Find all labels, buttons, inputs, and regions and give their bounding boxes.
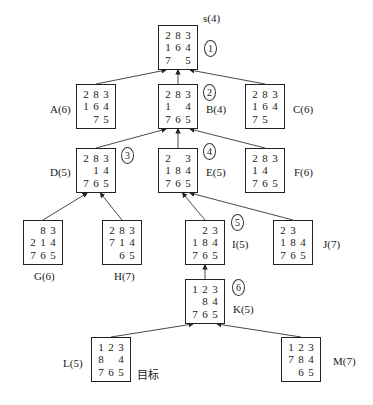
tile: 7 — [190, 249, 200, 261]
tile — [270, 113, 280, 125]
tile: 8 — [91, 152, 101, 164]
tile: 1 — [278, 236, 288, 248]
tile: 5 — [298, 249, 308, 261]
tile — [286, 366, 296, 378]
tile: 7 — [250, 113, 260, 125]
tile: 6 — [38, 249, 48, 261]
tile: 8 — [288, 236, 298, 248]
tile: 8 — [296, 353, 306, 365]
tile: 3 — [48, 224, 58, 236]
tile: 8 — [173, 164, 183, 176]
tile: 4 — [260, 164, 270, 176]
tile: 4 — [116, 353, 126, 365]
tile: 1 — [286, 341, 296, 353]
tile: 4 — [101, 100, 111, 112]
tile: 6 — [288, 249, 298, 261]
tile: 6 — [173, 177, 183, 189]
expansion-order-badge: 4 — [203, 143, 216, 160]
tile: 7 — [163, 54, 173, 66]
tile: 5 — [260, 113, 270, 125]
edge-M-to-K — [217, 324, 301, 337]
tile: 8 — [260, 88, 270, 100]
expansion-order-badge: 1 — [204, 40, 217, 57]
tile: 2 — [250, 88, 260, 100]
tile: 1 — [38, 236, 48, 248]
puzzle-state-G: 83214765 — [23, 220, 63, 265]
tile: 8 — [96, 353, 106, 365]
tile: 5 — [183, 113, 193, 125]
tile: 7 — [163, 113, 173, 125]
tile: 3 — [101, 152, 111, 164]
tile: 5 — [210, 308, 220, 320]
tile: 5 — [183, 177, 193, 189]
tile: 6 — [91, 177, 101, 189]
tile: 6 — [173, 41, 183, 53]
node-label: B(4) — [206, 103, 226, 115]
node-label: I(5) — [232, 238, 249, 250]
tile: 5 — [101, 177, 111, 189]
tile: 2 — [163, 88, 173, 100]
tile — [190, 224, 200, 236]
puzzle-state-M: 12378465 — [281, 337, 321, 382]
tile: 1 — [163, 100, 173, 112]
puzzle-state-D: 28314765 — [76, 148, 116, 193]
node-label: L(5) — [63, 357, 83, 369]
tile: 4 — [298, 236, 308, 248]
edge-G-to-D — [43, 193, 87, 220]
puzzle-state-F: 28314765 — [245, 148, 285, 193]
tile: 3 — [210, 283, 220, 295]
tile — [28, 224, 38, 236]
tile — [81, 164, 91, 176]
tile: 4 — [127, 236, 137, 248]
tile: 4 — [183, 41, 193, 53]
tile — [173, 152, 183, 164]
tile: 1 — [96, 341, 106, 353]
tile: 1 — [250, 164, 260, 176]
tile: 3 — [270, 88, 280, 100]
expansion-order-badge: 3 — [121, 147, 134, 164]
tile: 2 — [81, 152, 91, 164]
tile: 4 — [210, 295, 220, 307]
tile: 2 — [106, 341, 116, 353]
tile: 2 — [163, 152, 173, 164]
tile: 5 — [210, 249, 220, 261]
tile — [173, 54, 183, 66]
tile: 7 — [250, 177, 260, 189]
tile: 7 — [28, 249, 38, 261]
tile: 6 — [117, 249, 127, 261]
puzzle-state-K: 12384765 — [185, 279, 225, 324]
tile: 7 — [286, 353, 296, 365]
tile: 6 — [200, 308, 210, 320]
tile: 4 — [210, 236, 220, 248]
tile: 5 — [116, 366, 126, 378]
tile: 8 — [200, 295, 210, 307]
node-label: D(5) — [50, 166, 71, 178]
tile: 4 — [48, 236, 58, 248]
tile: 4 — [101, 164, 111, 176]
puzzle-state-I: 23184765 — [185, 220, 225, 265]
tile: 7 — [190, 308, 200, 320]
tile: 1 — [163, 41, 173, 53]
puzzle-state-B: 28314765 — [158, 84, 198, 129]
tile: 7 — [96, 366, 106, 378]
node-label: K(5) — [233, 303, 254, 315]
expansion-order-badge: 5 — [231, 214, 244, 231]
tile: 5 — [127, 249, 137, 261]
tile: 8 — [173, 88, 183, 100]
tile: 1 — [163, 164, 173, 176]
tile: 2 — [278, 224, 288, 236]
tile: 8 — [260, 152, 270, 164]
tile: 2 — [296, 341, 306, 353]
tile — [173, 100, 183, 112]
node-label: E(5) — [206, 166, 226, 178]
tile: 4 — [306, 353, 316, 365]
expansion-order-badge: 2 — [203, 84, 216, 101]
puzzle-state-H: 28371465 — [102, 220, 142, 265]
puzzle-state-E: 23184765 — [158, 148, 198, 193]
tile: 6 — [106, 366, 116, 378]
tile: 3 — [210, 224, 220, 236]
edge-D-to-B — [96, 129, 166, 148]
tile: 6 — [91, 100, 101, 112]
puzzle-state-L: 12384765 — [91, 337, 131, 382]
edge-I-to-E — [183, 193, 206, 220]
